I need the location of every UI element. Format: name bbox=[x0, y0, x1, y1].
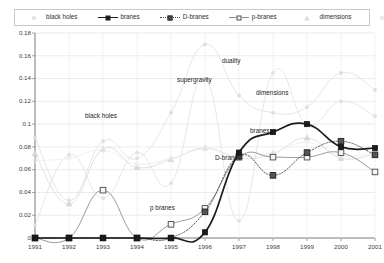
data-point-marker bbox=[33, 136, 37, 140]
legend-symbol-icon bbox=[32, 16, 36, 20]
data-point-marker bbox=[100, 187, 106, 193]
legend-marker-sq-open-icon bbox=[229, 13, 249, 22]
data-point-marker bbox=[101, 139, 105, 143]
data-point-marker bbox=[237, 94, 241, 98]
legend-marker-dot-icon bbox=[24, 13, 44, 22]
data-point-marker bbox=[373, 88, 377, 92]
chart-screenshot: black holesbranesD-branesp-branesdimensi… bbox=[0, 0, 384, 263]
data-point-marker bbox=[372, 145, 377, 150]
legend-label: dimensions bbox=[320, 14, 352, 20]
x-axis-label: 2000 bbox=[326, 244, 356, 250]
y-axis-label: 0.18 bbox=[2, 30, 31, 36]
legend-label: p-branes bbox=[252, 14, 277, 20]
legend-marker-sq-dark-icon bbox=[160, 13, 180, 22]
data-point-marker bbox=[67, 199, 71, 203]
plot-area: 00.020.040.060.080.10.120.140.160.181991… bbox=[0, 28, 384, 263]
x-axis-label: 1999 bbox=[292, 244, 322, 250]
chart-canvas bbox=[0, 28, 384, 263]
annotation-black-holes: black holes bbox=[85, 113, 117, 119]
x-axis-label: 1995 bbox=[156, 244, 186, 250]
annotation-supergravity: supergravity bbox=[177, 77, 212, 83]
data-point-marker bbox=[203, 42, 207, 46]
legend-label: black holes bbox=[46, 14, 78, 20]
data-point-marker bbox=[202, 230, 207, 235]
x-axis-label: 1991 bbox=[20, 244, 50, 250]
annotation-duality: duality bbox=[222, 58, 240, 64]
y-axis-label: 0.1 bbox=[2, 121, 31, 127]
legend-symbol-icon bbox=[304, 15, 310, 20]
legend-symbol-icon bbox=[237, 15, 242, 20]
x-axis-label: 1997 bbox=[224, 244, 254, 250]
legend-label: D-branes bbox=[183, 14, 209, 20]
data-point-marker bbox=[169, 111, 173, 115]
y-axis-label: 0.02 bbox=[2, 212, 31, 218]
legend-marker-sq-fill-icon bbox=[98, 13, 118, 22]
data-point-marker bbox=[372, 152, 378, 158]
data-point-marker bbox=[202, 209, 208, 215]
legend-item-duality[interactable]: duality bbox=[369, 10, 384, 25]
annotation-branes: branes bbox=[250, 128, 270, 134]
data-point-marker bbox=[339, 71, 343, 75]
data-point-marker bbox=[305, 105, 309, 109]
annotation-dimensions: dimensions bbox=[256, 90, 288, 96]
legend-item-black-holes[interactable]: black holes bbox=[21, 10, 78, 25]
legend-item-p-branes[interactable]: p-branes bbox=[227, 10, 277, 25]
x-axis-label: 1998 bbox=[258, 244, 288, 250]
data-point-marker bbox=[339, 99, 343, 103]
y-axis-label: 0.08 bbox=[2, 144, 31, 150]
data-point-marker bbox=[304, 150, 310, 156]
y-axis-label: 0 bbox=[2, 235, 31, 241]
data-point-marker bbox=[101, 196, 105, 200]
y-axis-label: 0.04 bbox=[2, 189, 31, 195]
data-point-marker bbox=[304, 122, 309, 127]
data-point-marker bbox=[135, 151, 139, 155]
data-point-marker bbox=[271, 111, 275, 115]
data-point-marker bbox=[237, 219, 241, 223]
data-point-marker bbox=[270, 129, 275, 134]
data-point-marker bbox=[271, 71, 275, 75]
x-axis-label: 1993 bbox=[88, 244, 118, 250]
x-axis-label: 1992 bbox=[54, 244, 84, 250]
data-point-marker bbox=[32, 235, 37, 240]
legend-symbol-icon bbox=[106, 15, 111, 20]
y-axis-label: 0.06 bbox=[2, 166, 31, 172]
legend-item-dimensions[interactable]: dimensions bbox=[295, 10, 352, 25]
chart-legend: black holesbranesD-branesp-branesdimensi… bbox=[14, 9, 370, 26]
legend-symbol-icon bbox=[168, 15, 173, 20]
y-axis-label: 0.16 bbox=[2, 53, 31, 59]
x-axis-label: 1996 bbox=[190, 244, 220, 250]
y-axis-label: 0.14 bbox=[2, 75, 31, 81]
x-axis-label: 1994 bbox=[122, 244, 152, 250]
annotation-p-branes: p branes bbox=[150, 205, 175, 211]
data-point-marker bbox=[270, 173, 276, 179]
legend-symbol-icon bbox=[379, 15, 384, 20]
data-point-marker bbox=[338, 144, 343, 149]
data-point-marker bbox=[32, 151, 38, 156]
data-point-marker bbox=[338, 150, 344, 156]
data-point-marker bbox=[33, 224, 37, 228]
y-axis-label: 0.12 bbox=[2, 98, 31, 104]
data-point-marker bbox=[270, 154, 276, 160]
data-point-marker bbox=[168, 222, 174, 228]
data-point-marker bbox=[168, 235, 173, 240]
data-point-marker bbox=[100, 235, 105, 240]
data-point-marker bbox=[372, 169, 378, 175]
annotation-d-branes: D-branes bbox=[215, 155, 241, 161]
x-axis-label: 2001 bbox=[360, 244, 384, 250]
data-point-marker bbox=[338, 138, 344, 144]
legend-item-branes[interactable]: branes bbox=[96, 10, 140, 25]
data-point-marker bbox=[134, 235, 139, 240]
data-point-marker bbox=[169, 181, 173, 185]
legend-label: branes bbox=[121, 14, 140, 20]
data-point-marker bbox=[373, 114, 377, 118]
legend-marker-tri-icon bbox=[297, 13, 317, 22]
data-point-marker bbox=[66, 235, 71, 240]
legend-marker-x-icon bbox=[372, 13, 384, 22]
data-point-marker bbox=[135, 156, 139, 160]
legend-item-d-branes[interactable]: D-branes bbox=[158, 10, 209, 25]
